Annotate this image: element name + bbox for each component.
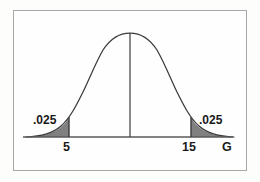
- figure-container: .025 .025 5 15 G: [0, 0, 260, 182]
- normal-distribution-plot: [0, 0, 260, 182]
- right-tail-probability-label: .025: [199, 114, 222, 126]
- x-axis-tick-label-right: 15: [182, 141, 196, 154]
- left-tail-probability-label: .025: [33, 114, 56, 126]
- x-axis-tick-label-left: 5: [63, 141, 70, 154]
- x-axis-variable-label: G: [222, 141, 232, 154]
